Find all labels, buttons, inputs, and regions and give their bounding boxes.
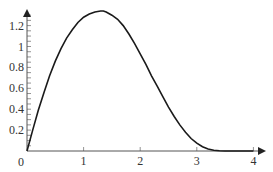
y-axis-arrow-icon [23,9,31,17]
y-tick-label: 0.2 [9,123,24,137]
x-tick-label: 4 [250,154,256,168]
y-tick-label: 1.2 [9,19,24,33]
y-axis-ticks: 0.20.40.60.811.2 [9,15,31,146]
x-tick-label: 3 [194,154,200,168]
origin-label: 0 [18,155,24,169]
line-chart: 0.20.40.60.811.2 1234 0 [0,0,273,172]
y-tick-label: 0.8 [9,60,24,74]
x-axis-ticks: 1234 [81,147,257,168]
y-tick-label: 0.6 [9,81,24,95]
y-tick-label: 0.4 [9,102,24,116]
series-line [27,11,253,151]
x-tick-label: 1 [81,154,87,168]
x-tick-label: 2 [137,154,143,168]
y-tick-label: 1 [18,40,24,54]
x-axis-arrow-icon [258,147,266,155]
